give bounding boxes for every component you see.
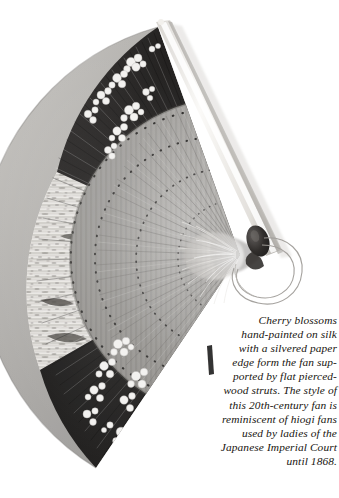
photo-caption: Cherry blossoms hand-painted on silk wit…	[219, 313, 337, 468]
page-root: Cherry blossoms hand-painted on silk wit…	[0, 0, 339, 498]
